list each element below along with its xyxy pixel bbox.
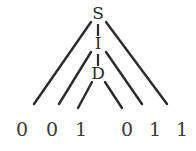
terminal-leaf: 0 xyxy=(13,120,31,139)
terminal-leaf: 1 xyxy=(72,120,90,139)
tree-edge-s-left xyxy=(34,22,91,104)
parse-tree-figure: S I D 001011 xyxy=(0,0,196,151)
tree-edge-d-right xyxy=(105,82,122,108)
terminal-leaf: 1 xyxy=(173,120,191,139)
tree-edge-s-right xyxy=(106,22,167,104)
tree-node-d: D xyxy=(88,65,108,82)
tree-node-i: I xyxy=(88,35,108,52)
terminal-leaf: 1 xyxy=(146,120,164,139)
terminal-leaf: 0 xyxy=(43,120,61,139)
terminal-leaf: 0 xyxy=(118,120,136,139)
tree-edge-d-left xyxy=(78,82,92,108)
tree-edge-i-right xyxy=(106,52,142,104)
tree-node-s: S xyxy=(88,5,108,22)
